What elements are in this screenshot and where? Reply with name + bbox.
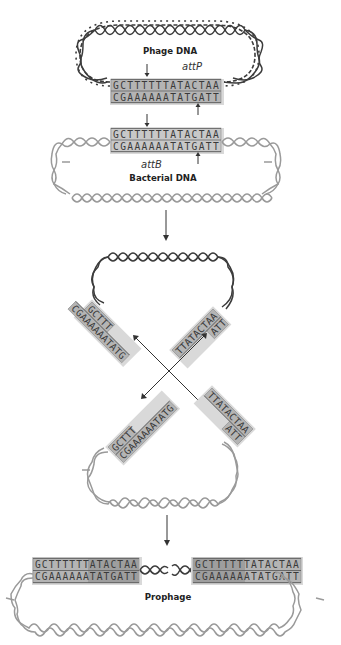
attb-sequence-block: GCTTTTTTATACTAA CGAAAAAATATGATT [110,128,224,154]
attp-top-strand: GCTTTTTTATACTAA [113,80,219,91]
left-bottom-strand: CGAAAAAATATGATT [35,571,137,582]
bacterial-dna-circle: GCTTTTTTATACTAA CGAAAAAATATGATT attB Bac… [51,114,280,202]
left-att-sequence-block: GCTTTTTTATACTAA CGAAAAAATATGATT [32,557,142,585]
right-att-sequence-block: GCTTTTTTATACTAA CGAAAAAATATGATT [191,557,303,585]
phage-dna-circle: Phage DNA attP GCTTTTTTATACTAA CGAAAAAAT… [76,21,263,115]
arrowhead-icon [145,73,150,77]
attb-bottom-strand: CGAAAAAATATGATT [113,141,219,152]
prophage-label: Prophage [145,592,192,602]
bacterial-dna-label: Bacterial DNA [129,173,197,183]
crossover-intermediate: GCTTT CGAAAAAATATG TTATACTAA ATT GCTTT C… [67,253,256,508]
arrowhead-icon [164,540,170,546]
bacterial-helix-loop [82,442,238,508]
phage-dna-label: Phage DNA [143,46,198,56]
attp-bottom-strand: CGAAAAAATATGATT [113,92,219,103]
attp-sequence-block: GCTTTTTTATACTAA CGAAAAAATATGATT [110,79,224,105]
right-top-strand: GCTTTTTTATACTAA [195,559,299,570]
lower-right-sequence-block: TTATACTAA ATT [194,385,256,447]
prophage-integrated: GCTTTTTTATACTAA CGAAAAAATATGATT GCTTTTTT… [6,557,324,636]
attb-top-strand: GCTTTTTTATACTAA [113,129,219,140]
attp-label: attP [182,61,203,72]
upper-left-sequence-block: GCTTT CGAAAAAATATG [67,292,142,367]
recombination-diagram: Phage DNA attP GCTTTTTTATACTAA CGAAAAAAT… [0,0,341,645]
phage-helix-loop [92,253,234,309]
arrowhead-icon [145,123,150,127]
arrowhead-icon [163,235,169,241]
lower-left-sequence-block: GCTTT CGAAAAAATATG [105,390,180,465]
strand-exchange-arrow-icon [143,335,205,397]
attb-label: attB [141,159,162,170]
left-top-strand: GCTTTTTTATACTAA [35,559,137,570]
upper-right-sequence-block: TTATACTAA ATT [169,306,231,368]
